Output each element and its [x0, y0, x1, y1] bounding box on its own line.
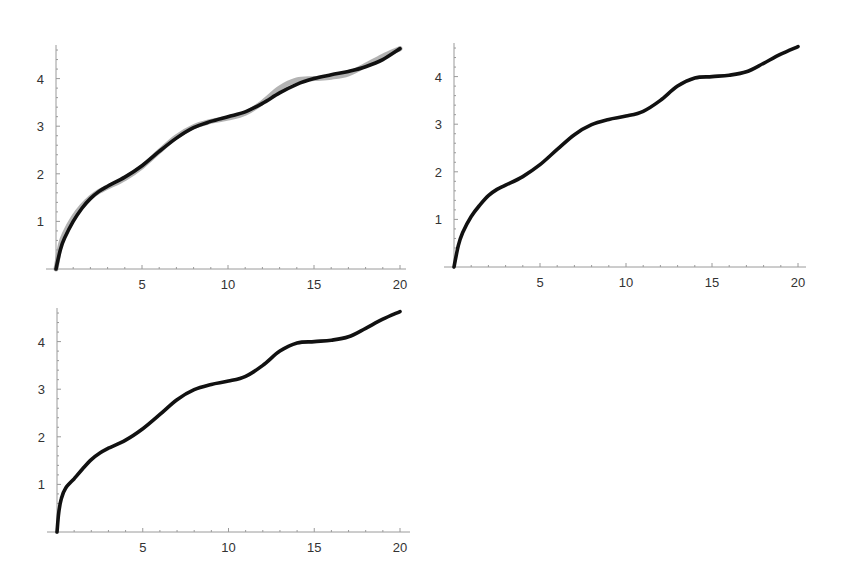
y-tick-label: 2 [435, 165, 442, 180]
x-tick-label: 15 [307, 277, 321, 292]
y-tick-label: 4 [435, 70, 442, 85]
x-tick-label: 5 [138, 277, 145, 292]
y-tick-label: 3 [37, 119, 44, 134]
chart-panel-bottom-left: 51015201234 [38, 308, 410, 555]
y-tick-label: 4 [37, 72, 44, 87]
y-tick-label: 4 [38, 335, 45, 350]
series-line-exact [56, 49, 400, 269]
series-line-curve [454, 47, 798, 267]
x-tick-label: 5 [139, 540, 146, 555]
x-tick-label: 20 [393, 540, 407, 555]
series-line-approximation [56, 49, 400, 269]
chart-canvas: 51015201234 51015201234 51015201234 [0, 0, 841, 584]
x-tick-label: 15 [705, 275, 719, 290]
y-tick-label: 3 [435, 117, 442, 132]
x-tick-label: 5 [536, 275, 543, 290]
x-tick-label: 20 [393, 277, 407, 292]
y-tick-label: 1 [38, 477, 45, 492]
y-tick-label: 1 [37, 214, 44, 229]
x-tick-label: 10 [221, 540, 235, 555]
y-tick-label: 3 [38, 382, 45, 397]
y-tick-label: 1 [435, 212, 442, 227]
chart-panel-top-left: 51015201234 [37, 45, 407, 292]
chart-panel-top-right: 51015201234 [435, 43, 806, 290]
y-tick-label: 2 [37, 167, 44, 182]
x-tick-label: 10 [221, 277, 235, 292]
x-tick-label: 10 [619, 275, 633, 290]
x-tick-label: 15 [307, 540, 321, 555]
y-tick-label: 2 [38, 430, 45, 445]
x-tick-label: 20 [791, 275, 805, 290]
series-line-curve [57, 312, 400, 532]
